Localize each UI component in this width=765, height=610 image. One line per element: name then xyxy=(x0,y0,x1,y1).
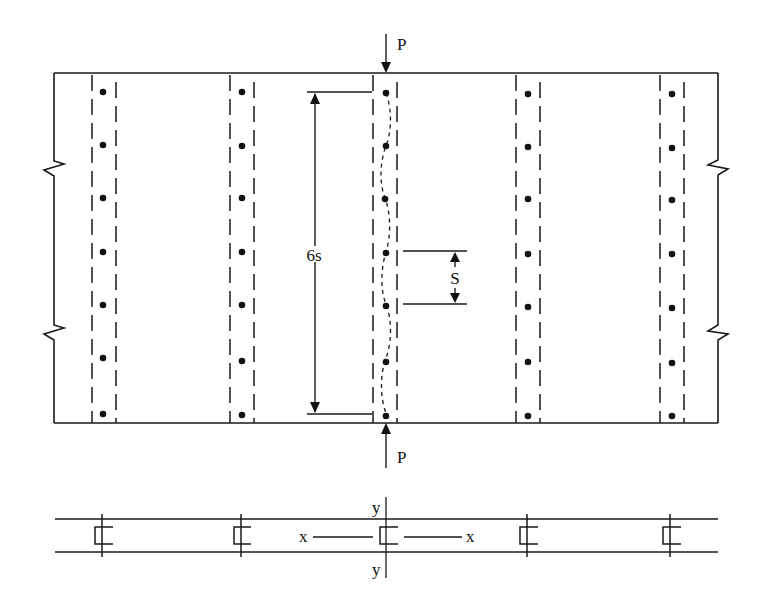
stiffener-section-2 xyxy=(234,514,251,557)
stiffener-section-1 xyxy=(95,514,113,557)
y-axis-bottom-label: y xyxy=(372,560,381,579)
arrowhead-down-icon xyxy=(310,402,320,413)
stiffener-lines xyxy=(92,75,684,423)
plan-view xyxy=(44,73,728,423)
stiffened-panel-diagram: 6s S P P xyxy=(0,0,765,610)
left-edge-break-line xyxy=(44,73,64,423)
load-bottom-label: P xyxy=(397,448,406,467)
arrowhead-up-icon xyxy=(310,93,320,104)
x-axis-left-label: x xyxy=(299,527,308,546)
arrowhead-down-icon xyxy=(381,62,391,73)
load-arrow-bottom xyxy=(381,423,391,468)
y-axis-top-label: y xyxy=(372,498,381,517)
arrowhead-up-icon xyxy=(450,252,460,262)
stiffener-section-5 xyxy=(663,514,681,557)
stiffener-section-3 xyxy=(380,527,398,544)
load-arrow-top xyxy=(381,34,391,73)
stiffener-section-4 xyxy=(520,514,538,557)
dimension-s-label: S xyxy=(450,269,459,288)
dimension-6s-label: 6s xyxy=(306,246,321,265)
right-edge-break-line xyxy=(708,73,728,423)
load-top-label: P xyxy=(397,35,406,54)
arrowhead-down-icon xyxy=(450,293,460,303)
x-axis-right-label: x xyxy=(466,527,475,546)
fasteners xyxy=(100,89,676,420)
arrowhead-up-icon xyxy=(381,423,391,434)
section-view xyxy=(55,497,718,578)
